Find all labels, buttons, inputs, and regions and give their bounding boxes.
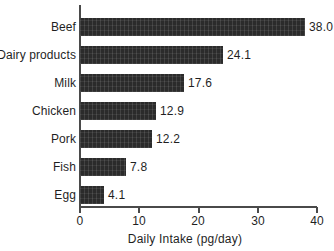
bar (80, 130, 152, 148)
category-label: Pork (0, 132, 76, 146)
category-label: Dairy products (0, 48, 76, 62)
bar-value-label: 4.1 (108, 188, 125, 202)
x-axis-tick (316, 207, 318, 213)
category-label: Beef (0, 20, 76, 34)
bar-value-label: 38.0 (309, 20, 333, 34)
x-axis-tick (198, 207, 200, 213)
bar-chart: 0 10 20 30 40 Beef Dairy products Milk C… (0, 0, 334, 251)
bar (80, 18, 305, 36)
x-axis-title-text: Daily Intake (pg/day) (128, 232, 242, 246)
bar-value-label: 17.6 (188, 76, 212, 90)
bar (80, 74, 184, 92)
x-axis-tick-label: 30 (238, 214, 278, 228)
bar-value-label: 24.1 (227, 48, 251, 62)
bar-value-label: 7.8 (130, 160, 147, 174)
category-label: Milk (0, 76, 76, 90)
bar-value-label: 12.2 (156, 132, 180, 146)
x-axis-tick (257, 207, 259, 213)
bar (80, 158, 126, 176)
x-axis-tick-label: 0 (60, 214, 100, 228)
category-label: Chicken (0, 104, 76, 118)
x-axis-tick-label: 40 (297, 214, 334, 228)
bar-value-label: 12.9 (160, 104, 184, 118)
bar (80, 102, 156, 120)
x-axis-tick-label: 20 (178, 214, 218, 228)
bar (80, 186, 104, 204)
x-axis-tick (138, 207, 140, 213)
category-label: Egg (0, 188, 76, 202)
category-label: Fish (0, 160, 76, 174)
x-axis-tick (79, 207, 81, 213)
x-axis-title: Daily Intake (pg/day) (0, 232, 334, 246)
x-axis-tick-label: 10 (119, 214, 159, 228)
bar (80, 46, 223, 64)
